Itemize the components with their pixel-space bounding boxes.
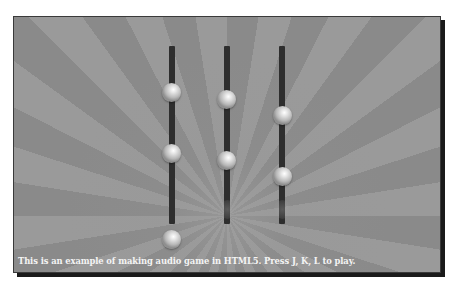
hit-marker-l: [273, 200, 292, 219]
instructions-caption: This is an example of making audio game …: [18, 256, 355, 266]
hit-marker-k: [218, 200, 237, 219]
note-ball: [217, 90, 236, 109]
note-ball: [273, 106, 292, 125]
track-k: [224, 46, 230, 224]
track-j: [169, 46, 175, 224]
note-ball: [217, 151, 236, 170]
track-l: [279, 46, 285, 224]
note-ball: [162, 83, 181, 102]
game-canvas[interactable]: This is an example of making audio game …: [13, 16, 441, 273]
note-ball: [162, 230, 181, 249]
note-ball: [273, 167, 292, 186]
note-ball: [162, 144, 181, 163]
